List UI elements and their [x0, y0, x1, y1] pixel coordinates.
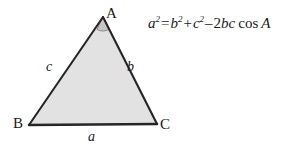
formula-term1-base: b — [170, 15, 178, 31]
vertex-label-a: A — [106, 6, 117, 21]
vertex-label-b: B — [13, 116, 23, 131]
formula-angle-argument: A — [261, 15, 270, 31]
formula-equals-operator: = — [160, 15, 170, 31]
side-label-c: c — [46, 60, 52, 74]
formula-lhs-base: a — [148, 15, 156, 31]
formula-minus-operator: – — [204, 15, 214, 31]
formula-cosine-function: cos — [238, 15, 258, 31]
formula-term2-base: c — [193, 15, 200, 31]
law-of-cosines-formula: a2=b2+c2–2bccosA — [148, 16, 270, 31]
formula-product-term: bc — [221, 15, 235, 31]
side-label-b: b — [127, 60, 134, 74]
formula-coefficient: 2 — [214, 15, 222, 31]
vertex-label-c: C — [160, 117, 170, 132]
figure-canvas: A B C c b a a2=b2+c2–2bccosA — [0, 0, 284, 151]
formula-plus-operator: + — [182, 15, 192, 31]
triangle-side-a-line — [29, 124, 157, 125]
side-label-a: a — [88, 130, 95, 144]
